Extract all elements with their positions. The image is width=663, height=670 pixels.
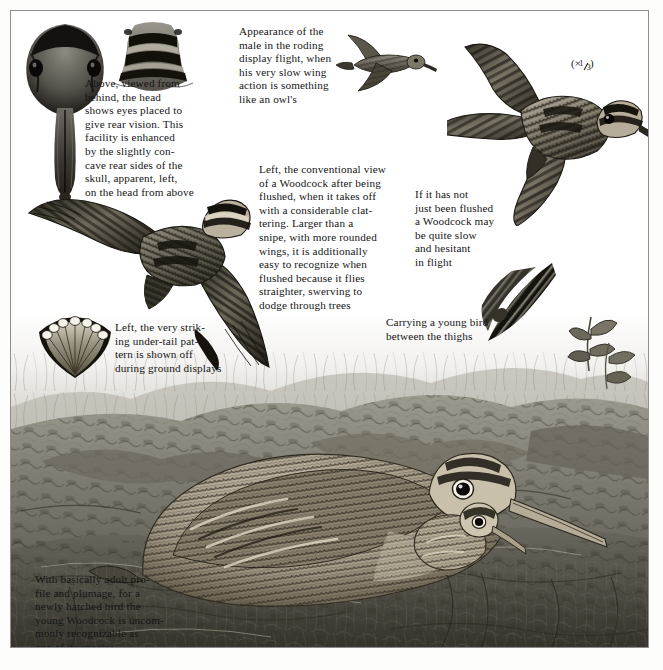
scale-note: (×13) (571, 57, 594, 70)
caption-young-woodcock: With basically adult pro- file and pluma… (35, 573, 185, 648)
under-tail-fan-illustration (35, 316, 115, 378)
caption-slow-hesitant-flight: If it has not just been flushed a Woodco… (415, 188, 521, 270)
page-root: Above, viewed from behind, the head show… (0, 0, 663, 670)
caption-conventional-flushed-view: Left, the conventional view of a Woodcoc… (259, 163, 419, 313)
scale-denominator: 3 (586, 62, 590, 72)
caption-head-from-behind: Above, viewed from behind, the head show… (85, 77, 245, 199)
caption-carrying-young: Carrying a young bird between the thighs (386, 316, 546, 343)
illustration-frame: Above, viewed from behind, the head show… (10, 10, 649, 648)
caption-under-tail-pattern: Left, the very strik- ing under-tail pat… (115, 321, 255, 375)
caption-roding-display-flight: Appearance of the male in the roding dis… (239, 25, 359, 107)
scale-fraction: 13 (581, 61, 590, 70)
scale-numerator: 1 (579, 58, 583, 68)
